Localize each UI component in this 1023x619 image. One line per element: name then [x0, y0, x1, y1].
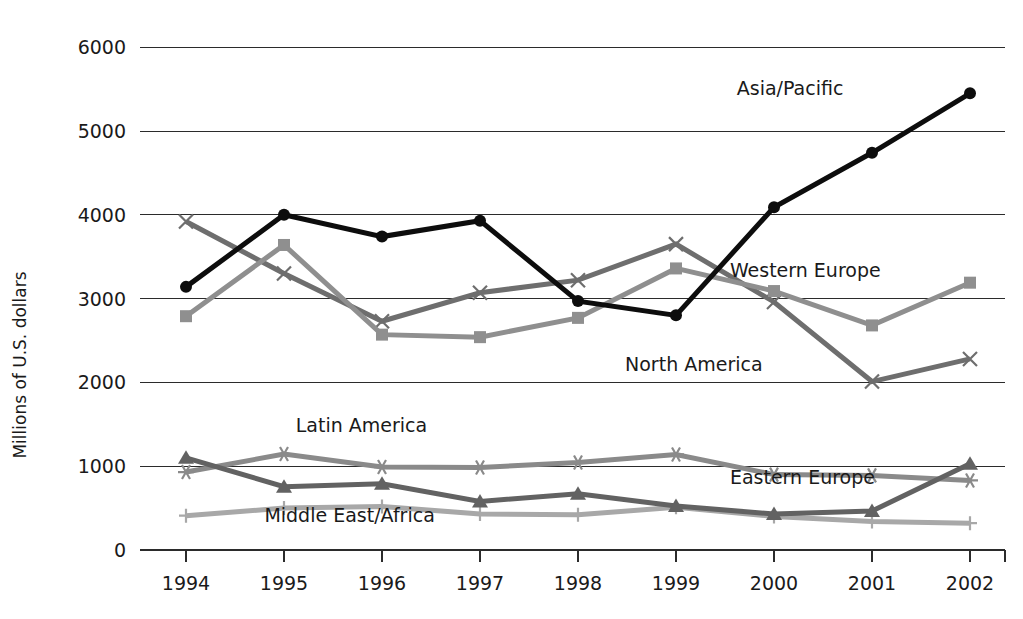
y-tick-label-5000: 5000 — [78, 120, 126, 142]
marker-asia-pacific-2002 — [964, 87, 976, 99]
marker-western-europe-1994 — [180, 310, 192, 322]
x-tick-label-1998: 1998 — [554, 572, 602, 594]
marker-latin-america-2002 — [962, 473, 978, 487]
y-tick-label-4000: 4000 — [78, 204, 126, 226]
series-label-latin-america: Latin America — [296, 414, 427, 436]
marker-western-europe-2001 — [866, 319, 878, 331]
x-axis-tick-labels: 199419951996199719981999200020012002 — [162, 572, 994, 594]
marker-western-europe-1999 — [670, 262, 682, 274]
line-chart: 0100020003000400050006000 19941995199619… — [0, 0, 1023, 619]
marker-asia-pacific-2000 — [768, 201, 780, 213]
marker-latin-america-1997 — [472, 460, 488, 474]
series-label-eastern-europe: Eastern Europe — [730, 466, 875, 488]
y-tick-label-1000: 1000 — [78, 455, 126, 477]
marker-western-europe-1996 — [376, 329, 388, 341]
x-tick-label-1995: 1995 — [260, 572, 308, 594]
axes — [140, 550, 1005, 562]
chart-canvas: 0100020003000400050006000 19941995199619… — [0, 0, 1023, 619]
marker-western-europe-1998 — [572, 312, 584, 324]
x-tick-label-2001: 2001 — [848, 572, 896, 594]
marker-latin-america-1995 — [276, 447, 292, 461]
y-tick-label-3000: 3000 — [78, 288, 126, 310]
marker-middle-east-africa-2002 — [963, 516, 977, 530]
marker-asia-pacific-1995 — [278, 209, 290, 221]
series-asia-pacific — [180, 87, 976, 321]
marker-western-europe-2002 — [964, 277, 976, 289]
series-label-north-america: North America — [625, 353, 763, 375]
x-tick-label-1994: 1994 — [162, 572, 210, 594]
marker-western-europe-2000 — [768, 285, 780, 297]
marker-latin-america-1994 — [178, 465, 194, 479]
series-label-asia-pacific: Asia/Pacific — [737, 77, 844, 99]
marker-asia-pacific-1996 — [376, 231, 388, 243]
marker-asia-pacific-1997 — [474, 215, 486, 227]
y-tick-label-0: 0 — [114, 539, 126, 561]
x-tick-label-1996: 1996 — [358, 572, 406, 594]
marker-asia-pacific-1998 — [572, 295, 584, 307]
marker-middle-east-africa-1998 — [571, 508, 585, 522]
x-tick-label-2000: 2000 — [750, 572, 798, 594]
marker-eastern-europe-2002 — [962, 456, 978, 470]
x-tick-label-2002: 2002 — [946, 572, 994, 594]
series-western-europe — [180, 239, 976, 343]
marker-western-europe-1995 — [278, 239, 290, 251]
marker-asia-pacific-2001 — [866, 147, 878, 159]
marker-latin-america-1999 — [668, 447, 684, 461]
series-label-western-europe: Western Europe — [730, 259, 881, 281]
marker-middle-east-africa-1997 — [473, 507, 487, 521]
marker-middle-east-africa-1994 — [179, 509, 193, 523]
y-tick-label-6000: 6000 — [78, 36, 126, 58]
x-tick-label-1999: 1999 — [652, 572, 700, 594]
y-axis-title: Millions of U.S. dollars — [10, 271, 30, 458]
y-tick-label-2000: 2000 — [78, 371, 126, 393]
marker-latin-america-1996 — [374, 460, 390, 474]
y-axis-tick-labels: 0100020003000400050006000 — [78, 36, 126, 561]
marker-asia-pacific-1999 — [670, 309, 682, 321]
marker-latin-america-1998 — [570, 455, 586, 469]
x-tick-label-1997: 1997 — [456, 572, 504, 594]
series-label-middle-east-africa: Middle East/Africa — [264, 504, 434, 526]
data-series — [178, 87, 978, 530]
marker-asia-pacific-1994 — [180, 281, 192, 293]
marker-western-europe-1997 — [474, 331, 486, 343]
